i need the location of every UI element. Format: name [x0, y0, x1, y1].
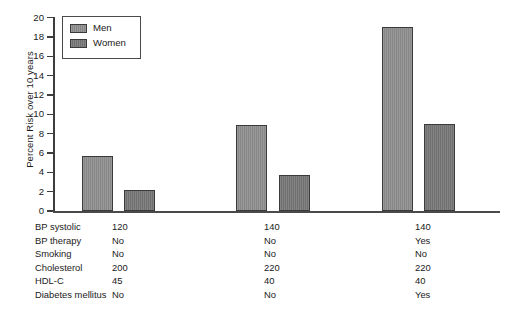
bar-men-group1: [82, 156, 113, 211]
table-row: HDL-C454040: [0, 274, 509, 288]
table-row: BP therapyNoNoYes: [0, 234, 509, 248]
row-value-col2: 40: [264, 274, 274, 288]
y-tick-label-12: 12: [24, 90, 44, 100]
y-tick-0: [47, 210, 53, 211]
row-value-col2: No: [264, 288, 276, 302]
table-row: SmokingNoNoNo: [0, 247, 509, 261]
legend-item-men: Men: [70, 23, 140, 33]
y-tick-label-6: 6: [24, 148, 44, 158]
risk-chart: Percent Risk over 10 years 2018161412108…: [0, 0, 509, 313]
row-value-col1: No: [112, 288, 124, 302]
legend-label-women: Women: [93, 38, 126, 48]
row-value-col1: No: [112, 247, 124, 261]
row-label: Cholesterol: [35, 261, 82, 275]
row-value-col2: No: [264, 234, 276, 248]
legend-swatch-women: [70, 39, 87, 48]
row-label: BP therapy: [35, 234, 81, 248]
row-value-col3: 220: [415, 261, 431, 275]
bar-women-group1: [124, 190, 155, 211]
y-tick-8: [47, 133, 53, 134]
y-tick-6: [47, 152, 53, 153]
y-tick-16: [47, 56, 53, 57]
y-tick-label-2: 2: [24, 187, 44, 197]
bar-men-group2: [236, 125, 267, 211]
legend-item-women: Women: [70, 38, 140, 48]
table-row: Diabetes mellitusNoNoYes: [0, 288, 509, 302]
row-label: Diabetes mellitus: [35, 288, 106, 302]
risk-factor-table: BP systolic120140140BP therapyNoNoYesSmo…: [0, 220, 509, 302]
row-label: BP systolic: [35, 220, 81, 234]
y-tick-20: [47, 17, 53, 18]
y-tick-label-16: 16: [24, 51, 44, 61]
y-tick-label-10: 10: [24, 109, 44, 119]
y-tick-10: [47, 114, 53, 115]
row-value-col2: No: [264, 247, 276, 261]
row-value-col2: 220: [264, 261, 280, 275]
row-label: HDL-C: [35, 274, 64, 288]
y-tick-label-14: 14: [24, 71, 44, 81]
y-tick-label-18: 18: [24, 32, 44, 42]
row-value-col3: No: [415, 247, 427, 261]
y-tick-14: [47, 75, 53, 76]
row-value-col1: 120: [112, 220, 128, 234]
y-axis-line: [53, 17, 55, 212]
table-row: BP systolic120140140: [0, 220, 509, 234]
y-tick-label-0: 0: [24, 206, 44, 216]
row-value-col1: 200: [112, 261, 128, 275]
y-tick-label-4: 4: [24, 167, 44, 177]
y-tick-2: [47, 191, 53, 192]
y-tick-4: [47, 172, 53, 173]
bar-women-group2: [279, 175, 310, 211]
row-value-col3: 40: [415, 274, 425, 288]
row-value-col3: Yes: [415, 234, 430, 248]
row-label: Smoking: [35, 247, 71, 261]
y-tick-label-20: 20: [24, 13, 44, 23]
row-value-col1: 45: [112, 274, 122, 288]
row-value-col2: 140: [264, 220, 280, 234]
legend-swatch-men: [70, 24, 87, 33]
y-tick-18: [47, 36, 53, 37]
y-tick-label-8: 8: [24, 129, 44, 139]
chart-legend: Men Women: [62, 16, 141, 59]
table-row: Cholesterol200220220: [0, 261, 509, 275]
bar-women-group3: [424, 124, 455, 211]
legend-label-men: Men: [93, 23, 112, 33]
row-value-col3: 140: [415, 220, 431, 234]
y-tick-12: [47, 94, 53, 95]
bar-men-group3: [382, 27, 413, 211]
row-value-col3: Yes: [415, 288, 430, 302]
row-value-col1: No: [112, 234, 124, 248]
